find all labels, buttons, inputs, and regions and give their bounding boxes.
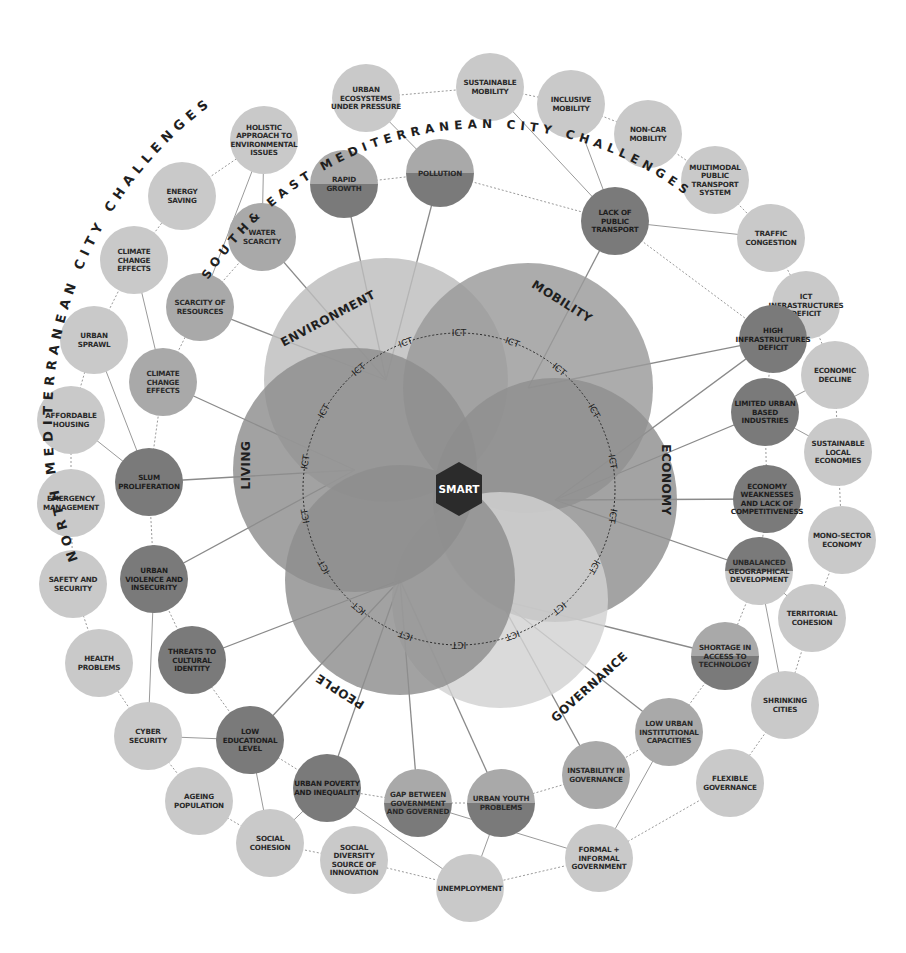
challenge-node-n15: UNEMPLOYMENT [436, 854, 504, 922]
node-label-line: AND GOVERNED [387, 807, 450, 816]
node-label-line: IDENTITY [174, 664, 211, 673]
challenge-node-n6: TRAFFICCONGESTION [737, 204, 805, 272]
node-label-line: RESOURCES [177, 307, 224, 316]
node-label-line: TRANSPORT [592, 225, 639, 234]
challenge-node-n13: FLEXIBLEGOVERNANCE [696, 749, 764, 817]
node-label-line: UNDER PRESSURE [331, 102, 401, 111]
node-label-line: CITIES [773, 705, 797, 714]
node-label-line: PROBLEMS [480, 803, 523, 812]
challenge-node-n27: HOLISTICAPPROACH TOENVIRONMENTALISSUES [230, 106, 298, 174]
node-label-line: SECURITY [129, 736, 168, 745]
ict-label: ICT [452, 328, 467, 338]
node-label-line: SECURITY [54, 584, 93, 593]
smart-city-challenges-diagram: ICTICTICTICTICTICTICTICTICTICTICTICTICTI… [0, 0, 906, 953]
challenge-node-s2: POLLUTION [406, 139, 474, 207]
challenge-node-s8: SHORTAGE INACCESS TOTECHNOLOGY [691, 622, 759, 690]
node-label-line: SAVING [167, 196, 197, 205]
node-label-line: SPRAWL [78, 340, 111, 349]
challenge-node-n10: MONO-SECTORECONOMY [808, 506, 876, 574]
node-label-line: DECLINE [819, 375, 852, 384]
node-label-line: POPULATION [174, 801, 224, 810]
node-label-line: UNEMPLOYMENT [437, 884, 502, 893]
smart-label: SMART [439, 483, 481, 495]
challenge-node-s17: SLUMPROLIFERATION [115, 448, 183, 516]
challenge-node-n19: CYBERSECURITY [114, 702, 182, 770]
challenge-node-n2: SUSTAINABLEMOBILITY [456, 53, 524, 121]
challenge-node-s11: URBAN YOUTHPROBLEMS [467, 769, 535, 837]
challenge-node-s5: LIMITED URBANBASEDINDUSTRIES [731, 378, 799, 446]
node-label-line: POLLUTION [418, 169, 462, 178]
node-label-line: PROLIFERATION [118, 482, 180, 491]
challenge-node-n14: FORMAL +INFORMALGOVERNMENT [565, 824, 633, 892]
ict-label: ICT [451, 640, 466, 650]
challenge-node-n11: TERRITORIALCOHESION [778, 584, 846, 652]
node-label-line: COMPETITIVENESS [731, 507, 803, 516]
node-label-line: ECONOMY [822, 540, 862, 549]
challenge-node-n24: URBANSPRAWL [60, 306, 128, 374]
challenge-node-s19: SCARCITY OFRESOURCES [166, 273, 234, 341]
node-label-line: LEVEL [238, 744, 262, 753]
challenge-node-n20: HEALTHPROBLEMS [65, 629, 133, 697]
node-label-line: SCARCITY [243, 237, 282, 246]
node-label-line: INSECURITY [131, 583, 178, 592]
challenge-node-s12: GAP BETWEENGOVERNMENTAND GOVERNED [384, 769, 452, 837]
node-label-line: DEFICIT [758, 343, 788, 352]
challenge-node-s14: LOWEDUCATIONALLEVEL [216, 706, 284, 774]
challenge-node-n26: ENERGYSAVING [148, 162, 216, 230]
node-label-line: INDUSTRIES [742, 416, 789, 425]
node-label-line: DEVELOPMENT [730, 575, 788, 584]
challenge-node-n25: CLIMATECHANGEEFFECTS [100, 226, 168, 294]
challenge-node-n8: ECONOMICDECLINE [801, 341, 869, 409]
domain-label-living: LIVING [239, 441, 253, 490]
node-label-line: CONGESTION [745, 238, 796, 247]
challenge-node-s15: THREATS TOCULTURALIDENTITY [158, 626, 226, 694]
challenge-node-n12: SHRINKINGCITIES [751, 671, 819, 739]
node-label-line: AND INEQUALITY [294, 788, 360, 797]
challenge-node-n16: SOCIALDIVERSITYSOURCE OFINNOVATION [320, 826, 388, 894]
challenge-node-n17: SOCIALCOHESION [236, 809, 304, 877]
node-label-line: PROBLEMS [78, 663, 121, 672]
domain-label-economy: ECONOMY [659, 444, 673, 516]
challenge-node-s9: LOW URBANINSTITUTIONALCAPACITIES [635, 698, 703, 766]
node-label-line: GOVERNANCE [703, 783, 757, 792]
node-label-line: HOUSING [53, 420, 90, 429]
challenge-node-s10: INSTABILITY INGOVERNANCE [562, 741, 630, 809]
challenge-node-n1: URBANECOSYSTEMSUNDER PRESSURE [331, 64, 401, 132]
node-label-line: GOVERNANCE [569, 775, 623, 784]
challenge-node-s13: URBAN POVERTYAND INEQUALITY [293, 754, 361, 822]
node-label-line: CAPACITIES [647, 736, 692, 745]
node-label-line: EFFECTS [117, 264, 151, 273]
challenge-node-n18: AGEINGPOPULATION [165, 767, 233, 835]
challenge-node-s7: UNBALANCEDGEOGRAPHICALDEVELOPMENT [725, 537, 793, 605]
challenge-node-s3: LACK OFPUBLICTRANSPORT [581, 187, 649, 255]
node-label-line: MOBILITY [629, 134, 667, 143]
node-label-line: ISSUES [250, 148, 277, 157]
node-label-line: INNOVATION [330, 868, 379, 877]
node-label-line: MOBILITY [471, 87, 509, 96]
node-label-line: GOVERNMENT [572, 862, 627, 871]
node-label-line: SYSTEM [699, 188, 730, 197]
node-label-line: MOBILITY [552, 104, 590, 113]
challenge-node-s6: ECONOMYWEAKNESSESAND LACK OFCOMPETITIVEN… [731, 465, 803, 533]
node-label-line: COHESION [250, 843, 291, 852]
node-label-line: COHESION [792, 618, 833, 627]
node-label-line: GROWTH [326, 184, 361, 193]
node-bottom-half [406, 173, 474, 207]
challenge-node-s18: CLIMATECHANGEEFFECTS [129, 348, 197, 416]
node-label-line: ECONOMIES [815, 456, 862, 465]
diagram-canvas: ICTICTICTICTICTICTICTICTICTICTICTICTICTI… [0, 0, 906, 953]
node-label-line: TECHNOLOGY [699, 660, 753, 669]
challenge-node-n5: MULTIMODALPUBLICTRANSPORTSYSTEM [681, 146, 749, 214]
node-label-line: EFFECTS [146, 386, 180, 395]
challenge-node-s16: URBANVIOLENCE ANDINSECURITY [120, 545, 188, 613]
challenge-node-n9: SUSTAINABLELOCALECONOMIES [804, 418, 872, 486]
